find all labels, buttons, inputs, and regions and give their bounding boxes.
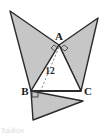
vertex-label-a: A xyxy=(55,30,63,42)
geometry-diagram: A B C 12 xyxy=(0,0,105,133)
height-measure-label: 12 xyxy=(45,66,55,76)
vertex-label-c: C xyxy=(84,85,92,97)
caption-fragment: Здійсн xyxy=(1,127,24,133)
vertex-label-b: B xyxy=(21,85,29,97)
bottom-flap-triangle xyxy=(31,91,83,120)
geometry-figure: A B C 12 Здійсн xyxy=(0,0,105,133)
